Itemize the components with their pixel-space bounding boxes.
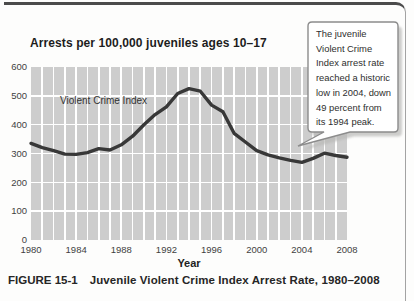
y-tick-label: 500 bbox=[11, 90, 27, 101]
callout-text: The juvenile Violent Crime Index arrest … bbox=[316, 27, 398, 130]
y-tick-label: 100 bbox=[11, 205, 27, 216]
figure-caption-label: FIGURE 15-1 bbox=[8, 274, 78, 286]
y-tick-label: 300 bbox=[11, 148, 27, 159]
figure-caption: FIGURE 15-1 Juvenile Violent Crime Index… bbox=[8, 274, 406, 286]
x-axis-title: Year bbox=[177, 257, 201, 269]
y-tick-label: 400 bbox=[11, 119, 27, 130]
x-tick-label: 1984 bbox=[66, 244, 87, 255]
x-tick-label: 2000 bbox=[246, 244, 267, 255]
x-tick-label: 1988 bbox=[111, 244, 132, 255]
x-tick-label: 2008 bbox=[336, 244, 357, 255]
x-tick-label: 1996 bbox=[201, 244, 222, 255]
x-tick-label: 1992 bbox=[156, 244, 177, 255]
series-label: Violent Crime Index bbox=[60, 95, 147, 106]
figure-caption-title: Juvenile Violent Crime Index Arrest Rate… bbox=[90, 274, 380, 286]
y-tick-label: 200 bbox=[11, 177, 27, 188]
x-tick-label: 1980 bbox=[20, 244, 41, 255]
chart-title: Arrests per 100,000 juveniles ages 10–17 bbox=[30, 36, 267, 50]
y-tick-label: 600 bbox=[11, 61, 27, 72]
callout-box: The juvenile Violent Crime Index arrest … bbox=[296, 20, 406, 152]
x-tick-label: 2004 bbox=[291, 244, 312, 255]
